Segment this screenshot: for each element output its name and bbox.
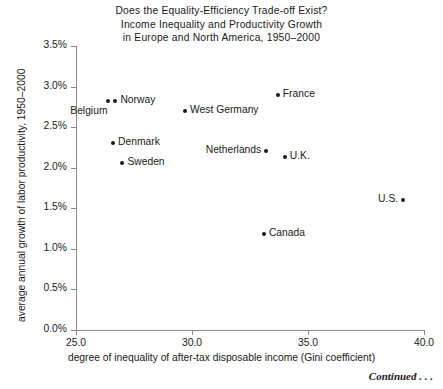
data-point-label: Norway <box>120 94 155 105</box>
y-axis-tick-label: 3.0% <box>44 80 67 91</box>
y-axis-tick: 3.0% <box>71 87 76 88</box>
data-point <box>264 149 268 153</box>
data-point <box>183 109 187 113</box>
data-point <box>113 99 117 103</box>
data-point <box>276 93 280 97</box>
y-axis-tick: 2.0% <box>71 168 76 169</box>
y-axis-tick: 1.0% <box>71 249 76 250</box>
x-axis-tick <box>76 330 77 335</box>
data-point <box>111 141 115 145</box>
data-point-label: Denmark <box>118 136 160 147</box>
y-axis-tick-label: 1.5% <box>44 201 67 212</box>
x-axis-label: degree of inequality of after-tax dispos… <box>0 352 443 363</box>
data-point <box>283 155 287 159</box>
data-point-label: U.S. <box>378 193 398 204</box>
y-axis-tick: 3.5% <box>71 46 76 47</box>
data-point-label: West Germany <box>190 104 258 115</box>
y-axis-tick-label: 2.0% <box>44 161 67 172</box>
chart-figure: Does the Equality-Efficiency Trade-off E… <box>0 0 443 389</box>
y-axis-tick: 2.5% <box>71 127 76 128</box>
x-axis-ticks: 25.030.035.040.0 <box>76 330 425 350</box>
data-point <box>401 198 405 202</box>
y-axis-tick: 1.5% <box>71 208 76 209</box>
data-point-label: Netherlands <box>206 144 262 155</box>
data-point <box>262 232 266 236</box>
chart-title-line-2: Income Inequality and Productivity Growt… <box>0 18 443 32</box>
x-axis-tick-label: 35.0 <box>298 337 318 348</box>
data-point-label: Sweden <box>127 156 164 167</box>
y-axis-tick-label: 0.5% <box>44 282 67 293</box>
continued-note: Continued . . . <box>369 370 433 382</box>
y-axis-tick-label: 0.0% <box>44 323 67 334</box>
x-axis-tick-label: 25.0 <box>66 337 86 348</box>
data-point-label: Canada <box>269 227 305 238</box>
data-point-label: U.K. <box>290 150 310 161</box>
y-axis-tick: 0.5% <box>71 289 76 290</box>
y-axis-tick-label: 1.0% <box>44 242 67 253</box>
x-axis-tick <box>424 330 425 335</box>
y-axis-label: average annual growth of labor productiv… <box>16 69 27 322</box>
x-axis-tick <box>192 330 193 335</box>
chart-title-line-1: Does the Equality-Efficiency Trade-off E… <box>0 4 443 18</box>
x-axis-tick-label: 30.0 <box>182 337 202 348</box>
data-point-label: Belgium <box>70 105 107 116</box>
y-axis-tick-label: 3.5% <box>44 39 67 50</box>
y-axis-tick-label: 2.5% <box>44 120 67 131</box>
data-point-label: France <box>283 88 315 99</box>
x-axis-tick-label: 40.0 <box>414 337 434 348</box>
data-point <box>106 99 110 103</box>
x-axis-tick <box>308 330 309 335</box>
plot-area: 0.0%0.5%1.0%1.5%2.0%2.5%3.0%3.5%BelgiumN… <box>76 46 424 330</box>
data-point <box>120 161 124 165</box>
